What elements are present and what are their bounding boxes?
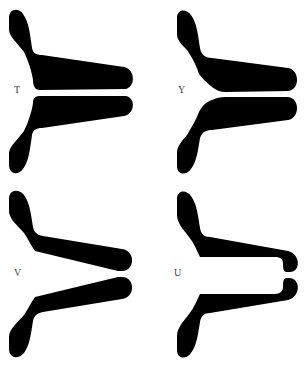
t-shape-icon bbox=[0, 0, 154, 183]
panel-label-v: V bbox=[14, 267, 21, 278]
panel-u: U bbox=[154, 183, 308, 366]
panel-label-u: U bbox=[174, 267, 181, 278]
panel-y: Y bbox=[154, 0, 308, 183]
panel-label-y: Y bbox=[178, 84, 185, 95]
panel-v: V bbox=[0, 183, 154, 366]
panel-t: T bbox=[0, 0, 154, 183]
v-shape-icon bbox=[0, 183, 154, 367]
panel-label-t: T bbox=[14, 84, 20, 95]
